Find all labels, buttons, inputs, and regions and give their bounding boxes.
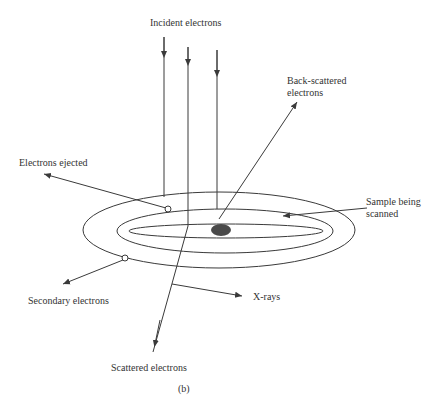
xray-arrow xyxy=(172,284,242,296)
secondary-electron-arrow xyxy=(63,260,123,284)
label-secondary-electrons: Secondary electrons xyxy=(28,295,109,306)
figure-caption: (b) xyxy=(178,383,190,395)
incident-electron-arrows xyxy=(164,37,217,226)
secondary-electron-marker xyxy=(122,255,128,261)
label-sample-line2: scanned xyxy=(366,208,398,219)
backscattered-arrow xyxy=(219,102,297,219)
scattered-electron-arrow xyxy=(153,226,188,352)
sem-electron-interaction-diagram: Incident electrons Back-scattered electr… xyxy=(0,0,440,414)
label-backscattered-line2: electrons xyxy=(287,87,323,98)
label-backscattered-line1: Back-scattered xyxy=(287,75,346,86)
label-sample-line1: Sample being xyxy=(366,196,421,207)
label-xrays: X-rays xyxy=(253,291,280,302)
sample-pointer-arrow xyxy=(283,208,367,216)
label-electrons-ejected: Electrons ejected xyxy=(19,157,88,168)
ejected-electron-arrow xyxy=(44,174,166,208)
sample-spot xyxy=(211,224,231,236)
ejected-electron-marker xyxy=(165,206,171,212)
label-incident-electrons: Incident electrons xyxy=(150,17,221,28)
label-scattered-electrons: Scattered electrons xyxy=(111,362,187,373)
